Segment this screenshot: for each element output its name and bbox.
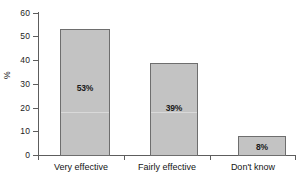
scan-artifact-line-1 [61,112,109,113]
y-tick-30 [33,84,38,85]
y-tick-label-20: 20 [0,104,30,113]
bar-dont-know[interactable]: 8% [238,136,286,156]
scan-artifact-line-2 [151,112,197,113]
bar-fairly-effective[interactable]: 39% [150,63,198,156]
category-label-fairly-effective: Fairly effective [124,163,210,172]
plot-area: % 60 50 40 30 20 10 0 53% 39% 8% [0,0,306,184]
y-tick-label-10: 10 [0,127,30,136]
category-label-very-effective: Very effective [38,163,124,172]
x-tick-start [38,155,39,160]
y-tick-label-0: 0 [0,151,30,160]
y-tick-40 [33,60,38,61]
y-tick-60 [33,13,38,14]
bar-chart: % 60 50 40 30 20 10 0 53% 39% 8% [0,0,306,184]
x-tick-1 [124,155,125,160]
bar-very-effective[interactable]: 53% [60,29,110,156]
bar-value-dont-know: 8% [239,143,285,152]
y-tick-20 [33,108,38,109]
y-axis-line [38,12,39,156]
x-tick-2 [210,155,211,160]
y-tick-label-30: 30 [0,80,30,89]
y-tick-10 [33,131,38,132]
y-tick-label-40: 40 [0,56,30,65]
y-tick-label-50: 50 [0,32,30,41]
y-axis-title: % [3,71,12,79]
category-label-dont-know: Don't know [210,163,296,172]
y-tick-label-60: 60 [0,9,30,18]
x-tick-end [295,155,296,160]
y-tick-50 [33,36,38,37]
bar-value-very-effective: 53% [61,84,109,93]
